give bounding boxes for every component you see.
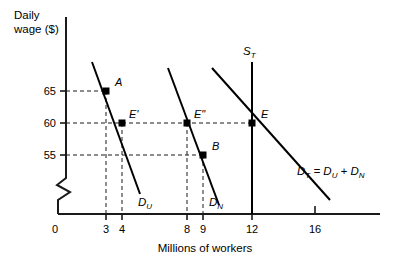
y-tick-label-65: 65 xyxy=(44,85,56,97)
eq-DN-subscript: N xyxy=(359,171,365,180)
marker-point-A xyxy=(103,88,110,95)
curve-label-DU-base: D xyxy=(138,196,146,208)
marker-point-E-prime xyxy=(119,120,126,127)
svg-text:ST: ST xyxy=(243,45,257,60)
x-tick-label-9: 9 xyxy=(200,223,206,235)
y-axis-title-line2: wage ($) xyxy=(13,23,59,35)
curve-DT xyxy=(212,68,330,200)
origin-label: 0 xyxy=(52,223,58,235)
y-tick-label-55: 55 xyxy=(44,149,56,161)
point-label-B: B xyxy=(212,140,219,152)
point-label-E-prime: E' xyxy=(129,108,139,120)
point-label-E: E xyxy=(261,108,269,120)
curve-label-ST-subscript: T xyxy=(251,51,257,60)
economics-chart-figure: 65 60 55 3 4 8 9 12 16 0 Daily wage ($) … xyxy=(0,0,401,265)
svg-text:DU: DU xyxy=(138,196,152,211)
svg-text:DN: DN xyxy=(209,196,223,211)
guide-lines xyxy=(66,91,252,214)
chart-canvas: 65 60 55 3 4 8 9 12 16 0 Daily wage ($) … xyxy=(0,0,401,265)
x-tick-label-4: 4 xyxy=(119,223,125,235)
eq-plus-sign: + xyxy=(337,165,350,177)
point-label-E-double-prime: E" xyxy=(194,108,206,120)
x-tick-label-12: 12 xyxy=(246,223,258,235)
curve-DN xyxy=(168,68,219,205)
curve-label-DU: DU xyxy=(138,196,152,211)
curve-label-DU-subscript: U xyxy=(146,202,152,211)
axes xyxy=(57,17,380,214)
point-label-A: A xyxy=(114,76,122,88)
marker-point-E-double-prime xyxy=(184,120,191,127)
curve-label-DT-equation: DT = DU + DN xyxy=(297,165,365,180)
eq-DT-base: D xyxy=(297,165,305,177)
curve-label-DN: DN xyxy=(209,196,223,211)
x-tick-label-16: 16 xyxy=(309,223,321,235)
marker-point-E xyxy=(249,120,256,127)
svg-text:DT = DU + DN: DT = DU + DN xyxy=(297,165,365,180)
curve-label-DN-base: D xyxy=(209,196,217,208)
marker-point-B xyxy=(200,152,207,159)
eq-DN-base: D xyxy=(351,165,359,177)
x-tick-label-8: 8 xyxy=(184,223,190,235)
y-axis-break-symbol xyxy=(57,172,70,214)
eq-DU-base: D xyxy=(323,165,331,177)
y-tick-label-60: 60 xyxy=(44,117,56,129)
x-axis-title: Millions of workers xyxy=(158,242,253,254)
curves xyxy=(92,62,330,214)
eq-equals-sign: = xyxy=(310,165,323,177)
curve-label-DN-subscript: N xyxy=(217,202,223,211)
x-tick-label-3: 3 xyxy=(103,223,109,235)
y-axis-title-line1: Daily xyxy=(14,9,40,21)
curve-label-ST: ST xyxy=(243,45,257,60)
